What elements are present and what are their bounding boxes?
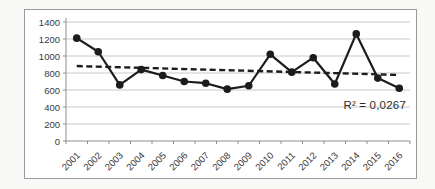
x-tick-label: 2003 <box>102 150 125 173</box>
x-tick-label: 2005 <box>145 150 168 173</box>
x-tick-label: 2014 <box>339 150 362 173</box>
x-tick-label: 2008 <box>210 150 233 173</box>
data-point-marker <box>309 54 317 62</box>
data-point-marker <box>180 78 188 86</box>
x-tick-label: 2004 <box>124 150 147 173</box>
x-tick-label: 2016 <box>382 150 405 173</box>
chart-frame: 0200400600800100012001400200120022003200… <box>24 9 417 179</box>
data-point-marker <box>116 81 124 89</box>
y-tick-label: 800 <box>44 68 60 79</box>
x-tick-label: 2013 <box>317 150 340 173</box>
data-point-marker <box>245 82 253 90</box>
line-chart: 0200400600800100012001400200120022003200… <box>25 10 416 178</box>
data-point-marker <box>266 51 274 59</box>
data-point-marker <box>374 74 382 82</box>
data-point-marker <box>395 85 403 93</box>
y-tick-label: 0 <box>55 136 60 147</box>
x-tick-label: 2015 <box>360 150 383 173</box>
data-point-marker <box>223 85 231 93</box>
x-tick-label: 2007 <box>188 150 211 173</box>
y-tick-label: 400 <box>44 102 60 113</box>
data-point-marker <box>352 30 360 38</box>
x-tick-label: 2009 <box>231 150 254 173</box>
data-point-marker <box>137 66 145 74</box>
y-tick-label: 1200 <box>39 34 60 45</box>
x-tick-label: 2011 <box>275 150 297 172</box>
data-line <box>77 34 400 89</box>
page: 0200400600800100012001400200120022003200… <box>0 0 435 189</box>
y-tick-label: 1000 <box>39 51 60 62</box>
x-tick-label: 2002 <box>81 150 104 173</box>
data-point-marker <box>202 79 210 87</box>
x-tick-label: 2001 <box>59 150 82 173</box>
trendline-dashed <box>77 66 400 75</box>
data-point-marker <box>331 80 339 88</box>
y-tick-label: 200 <box>44 119 60 130</box>
x-tick-label: 2012 <box>296 150 319 173</box>
r-squared-annotation: R² = 0,0267 <box>343 99 406 111</box>
data-point-marker <box>94 48 102 56</box>
data-point-marker <box>73 34 81 42</box>
x-tick-label: 2006 <box>167 150 190 173</box>
data-point-marker <box>159 72 167 80</box>
y-tick-label: 1400 <box>39 17 60 28</box>
x-tick-label: 2010 <box>253 150 276 173</box>
data-point-marker <box>288 68 296 76</box>
y-tick-label: 600 <box>44 85 60 96</box>
